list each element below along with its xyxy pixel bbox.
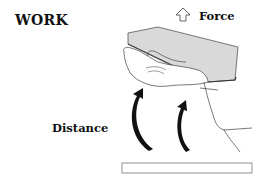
work-illustration [0,0,259,185]
distance-arrows-icon [132,88,190,152]
table-surface [122,163,252,173]
force-arrow-icon [176,8,190,21]
